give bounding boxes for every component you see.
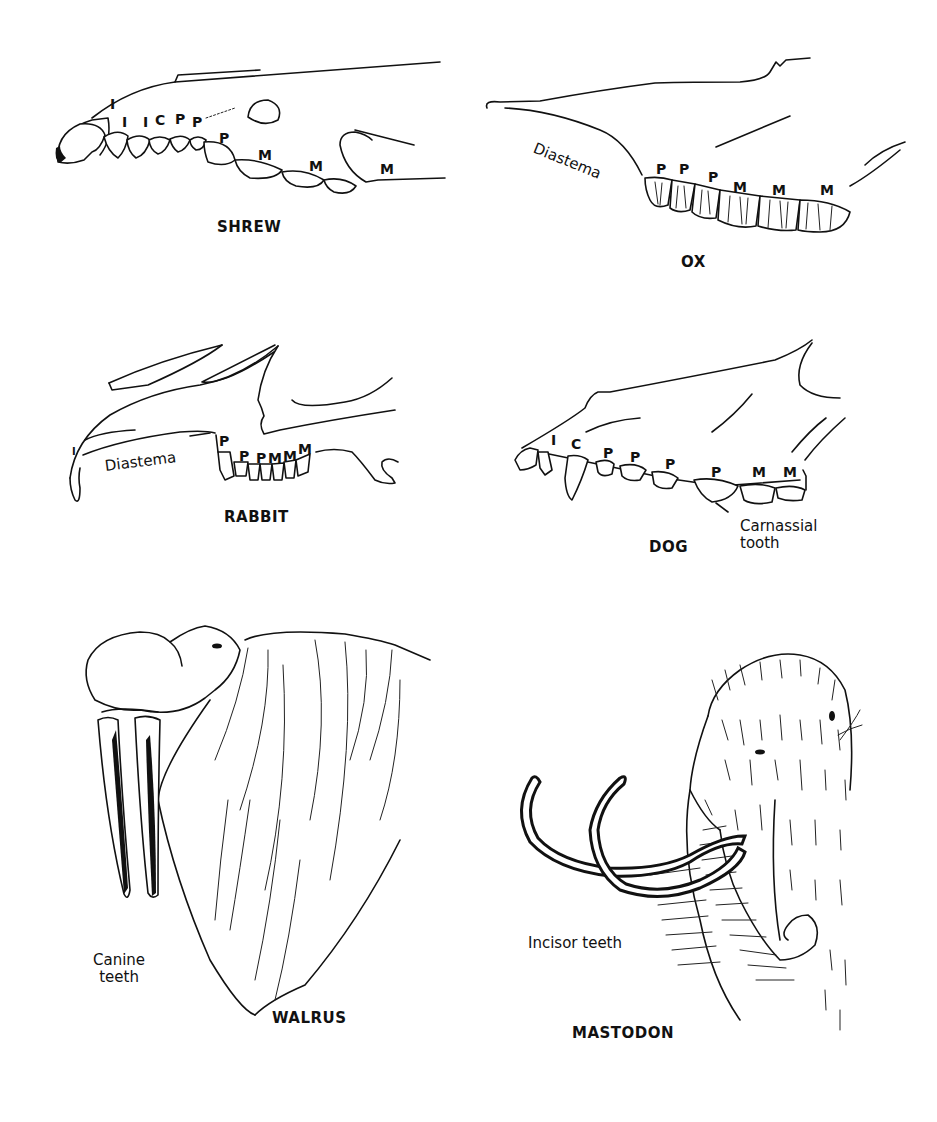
rabbit-label-molar-2: M bbox=[283, 449, 297, 463]
ox-label-molar-3: M bbox=[820, 183, 834, 197]
shrew-label-molar-1: M bbox=[258, 148, 272, 162]
shrew-label-molar-2: M bbox=[309, 159, 323, 173]
dog-skull bbox=[515, 340, 845, 512]
mastodon-caption: MASTODON bbox=[572, 1024, 674, 1042]
shrew-label-incisor-3: I bbox=[143, 115, 148, 129]
rabbit-label-molar-1: M bbox=[268, 451, 282, 465]
dog-label-incisor: I bbox=[551, 433, 556, 447]
rabbit-label-premolar-3: P bbox=[256, 451, 266, 465]
shrew-label-premolar-1: P bbox=[175, 112, 185, 126]
dog-label-molar-1: M bbox=[752, 465, 766, 479]
walrus-canine-line2: teeth bbox=[93, 969, 145, 986]
ox-label-molar-1: M bbox=[733, 180, 747, 194]
rabbit-label-molar-3: M bbox=[298, 442, 312, 456]
dog-caption: DOG bbox=[649, 538, 688, 556]
dog-carnassial-annotation: Carnassial tooth bbox=[740, 518, 817, 552]
ox-caption: OX bbox=[681, 253, 706, 271]
mastodon-incisor-annotation: Incisor teeth bbox=[528, 935, 622, 952]
mastodon-illustration bbox=[521, 654, 862, 1030]
rabbit-label-premolar-1: P bbox=[219, 434, 229, 448]
rabbit-label-premolar-2: P bbox=[239, 449, 249, 463]
dog-label-premolar-1: P bbox=[603, 446, 613, 460]
shrew-label-premolar-3: P bbox=[219, 131, 229, 145]
dog-label-premolar-2: P bbox=[630, 450, 640, 464]
rabbit-label-incisor: I bbox=[72, 447, 76, 457]
ox-label-premolar-2: P bbox=[679, 162, 689, 176]
dog-label-premolar-4: P bbox=[711, 465, 721, 479]
shrew-label-incisor-2: I bbox=[122, 115, 127, 129]
dog-label-molar-2: M bbox=[783, 465, 797, 479]
dog-label-premolar-3: P bbox=[665, 457, 675, 471]
dog-carnassial-line2: tooth bbox=[740, 535, 817, 552]
ox-label-premolar-3: P bbox=[708, 170, 718, 184]
walrus-canine-line1: Canine bbox=[93, 952, 145, 969]
ox-label-premolar-1: P bbox=[656, 162, 666, 176]
ox-label-molar-2: M bbox=[772, 183, 786, 197]
walrus-canine-annotation: Canine teeth bbox=[93, 952, 145, 986]
rabbit-caption: RABBIT bbox=[224, 508, 289, 526]
dog-carnassial-line1: Carnassial bbox=[740, 518, 817, 535]
shrew-label-premolar-2: P bbox=[192, 115, 202, 129]
dog-label-canine: C bbox=[571, 437, 581, 451]
walrus-caption: WALRUS bbox=[272, 1009, 347, 1027]
rabbit-skull bbox=[70, 345, 398, 501]
shrew-label-molar-3: M bbox=[380, 162, 394, 176]
shrew-label-canine: C bbox=[155, 113, 165, 127]
shrew-caption: SHREW bbox=[217, 218, 281, 236]
shrew-label-incisor-1: I bbox=[110, 97, 115, 111]
